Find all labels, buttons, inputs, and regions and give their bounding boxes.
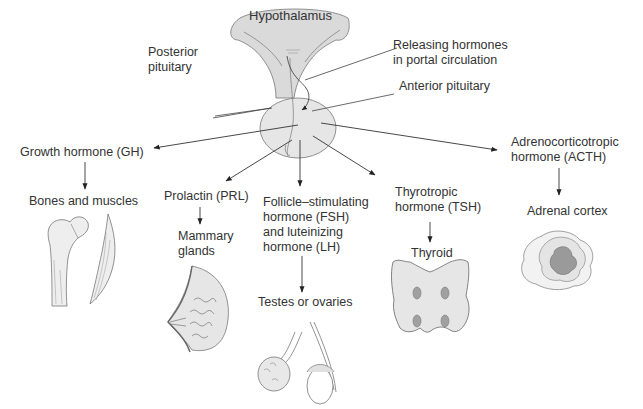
adrenal-cortex-label: Adrenal cortex bbox=[527, 204, 608, 219]
muscle-illustration bbox=[90, 214, 115, 304]
hypothalamus-label: Hypothalamus bbox=[249, 8, 332, 23]
mammary-glands-label: Mammary glands bbox=[178, 229, 234, 259]
thyroid-illustration bbox=[391, 260, 469, 332]
bones-muscles-label: Bones and muscles bbox=[29, 194, 138, 209]
bone-illustration bbox=[48, 217, 88, 306]
anterior-pituitary-label: Anterior pituitary bbox=[399, 79, 490, 94]
prolactin-label: Prolactin (PRL) bbox=[164, 189, 249, 204]
thyrotropic-hormone-label: Thyrotropic hormone (TSH) bbox=[395, 185, 481, 215]
adrenal-cortex-illustration bbox=[522, 231, 593, 290]
testes-ovaries-illustration bbox=[258, 322, 336, 404]
acth-label: Adrenocorticotropic hormone (ACTH) bbox=[511, 135, 619, 165]
releasing-hormones-label: Releasing hormones in portal circulation bbox=[393, 38, 508, 68]
mammary-gland-illustration bbox=[168, 266, 228, 352]
posterior-pituitary-label: Posterior pituitary bbox=[148, 45, 198, 75]
fsh-lh-label: Follicle–stimulating hormone (FSH) and l… bbox=[263, 195, 369, 255]
growth-hormone-label: Growth hormone (GH) bbox=[20, 145, 144, 160]
thyroid-label: Thyroid bbox=[411, 246, 453, 261]
testes-ovaries-label: Testes or ovaries bbox=[258, 295, 352, 310]
